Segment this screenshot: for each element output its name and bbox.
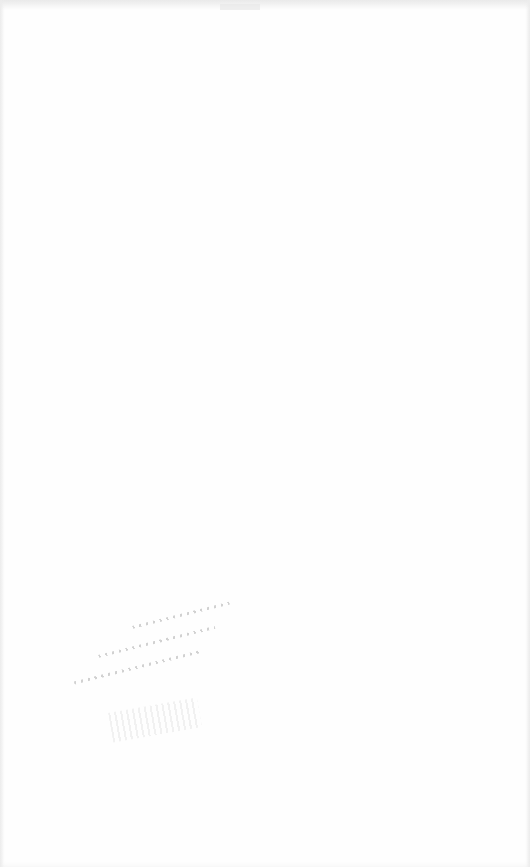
speck-line: [74, 650, 201, 684]
right-edge-shadow: [526, 0, 530, 867]
illegible-marks: [52, 587, 268, 723]
speck-line: [132, 602, 230, 629]
top-faint-mark: [220, 4, 260, 10]
top-edge-shadow: [0, 0, 530, 10]
blank-page: [0, 0, 530, 867]
left-edge-shadow: [0, 0, 4, 867]
